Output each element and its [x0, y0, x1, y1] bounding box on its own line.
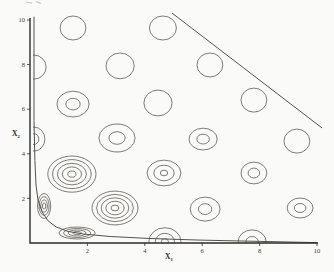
- contour-ring: [241, 162, 267, 184]
- y-tick-label: 8: [22, 61, 25, 68]
- y-tick-label: 10: [19, 16, 26, 23]
- contour-ring: [284, 129, 310, 153]
- y-tick-label: 4: [22, 150, 26, 157]
- contour-ring: [53, 160, 92, 189]
- contour-ring: [190, 197, 220, 221]
- contour-ring: [106, 53, 134, 79]
- axes: [30, 18, 318, 243]
- contour-ring: [99, 124, 135, 152]
- contour-ring: [109, 132, 125, 145]
- plot-generated-layer: 246810246810: [19, 13, 322, 256]
- contour-figure: 246810246810 X1 X2: [0, 0, 334, 272]
- cropped-corner-marks: [26, 2, 41, 4]
- contour-ring: [246, 237, 259, 248]
- y-tick-label: 2: [22, 195, 25, 202]
- y-axis-label-subscript: 2: [17, 134, 20, 139]
- contour-ring: [60, 16, 86, 40]
- x-tick-label: 6: [201, 247, 205, 254]
- contour-ring: [66, 98, 80, 110]
- contour-ring: [62, 167, 81, 181]
- contour-ring: [160, 170, 167, 176]
- x-axis-label: X1: [165, 252, 173, 262]
- contour-plot-svg: 246810246810 X1 X2: [0, 0, 334, 272]
- contour-ring: [147, 160, 181, 186]
- contour-ring: [48, 156, 96, 192]
- contour-ring: [92, 191, 138, 225]
- contour-ring: [294, 204, 306, 213]
- contour-ring: [154, 165, 174, 181]
- contour-ring: [189, 128, 217, 150]
- boundary-constraint-curve: [34, 17, 317, 243]
- x-tick-label: 4: [143, 247, 147, 254]
- x-tick-label: 2: [86, 247, 89, 254]
- contour-ring: [198, 204, 211, 215]
- contour-ring: [248, 168, 260, 178]
- y-axis-label: X2: [12, 129, 20, 139]
- contour-ring: [197, 134, 210, 144]
- contour-ring: [149, 16, 176, 40]
- contour-ring: [111, 205, 119, 211]
- contour-ring: [57, 91, 89, 117]
- contour-ring: [197, 53, 223, 77]
- contour-ring: [287, 198, 313, 218]
- x-tick-label: 10: [314, 247, 321, 254]
- contour-ring: [241, 88, 267, 112]
- y-tick-label: 6: [22, 105, 26, 112]
- contour-ring: [97, 194, 134, 221]
- contour-ring: [68, 171, 76, 177]
- contour-clusters-layer: [22, 16, 313, 256]
- contour-ring: [42, 203, 45, 209]
- x-tick-label: 8: [258, 247, 261, 254]
- contour-ring: [106, 201, 124, 215]
- x-axis-label-subscript: 1: [171, 257, 174, 262]
- contour-ring: [155, 233, 174, 250]
- contour-ring: [144, 90, 172, 116]
